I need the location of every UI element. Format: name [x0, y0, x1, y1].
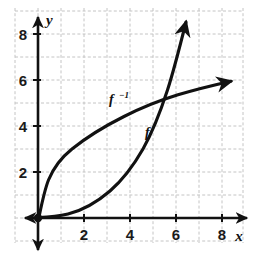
x-tick-label-4: 4	[126, 226, 135, 243]
y-tick-label-6: 6	[19, 72, 27, 89]
y-axis-label: y	[44, 12, 53, 28]
graph-figure: 8 6 4 2 2 4 6 8 y x f −1 f	[0, 0, 256, 261]
y-tick-label-4: 4	[19, 118, 28, 135]
x-tick-label-6: 6	[172, 226, 180, 243]
x-tick-label-8: 8	[218, 226, 226, 243]
coordinate-plane-svg: 8 6 4 2 2 4 6 8 y x f −1 f	[0, 0, 256, 261]
x-tick-label-2: 2	[80, 226, 88, 243]
x-axis-label: x	[234, 228, 243, 244]
y-tick-label-8: 8	[19, 26, 27, 43]
y-tick-label-2: 2	[19, 164, 27, 181]
origin-point	[34, 214, 42, 222]
curve-label-f-inverse-superscript: −1	[119, 90, 129, 100]
